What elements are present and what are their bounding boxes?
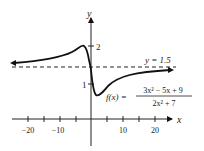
right-arrow-icon [168,67,174,73]
tick-label-neg20: −20 [22,126,35,135]
function-numerator: 3x² − 5x + 9 [143,86,182,95]
function-label: f(x) = [106,92,127,102]
tick-label-y2: 2 [96,42,101,52]
y-axis-label: y [86,8,92,19]
tick-label-10: 10 [119,126,127,135]
tick-label-y1: 1 [82,80,87,90]
tick-label-20: 20 [151,126,159,135]
left-arrow-icon [10,60,16,66]
x-axis-label: x [176,114,182,125]
asymptote-label: y = 1.5 [144,55,171,65]
tick-label-neg10: −10 [52,126,65,135]
chart: y x −20 −10 10 20 2 1 y = 1.5 f(x) = 3x²… [0,0,204,151]
function-denominator: 2x² + 7 [153,99,176,108]
function-curve-left [14,46,91,70]
